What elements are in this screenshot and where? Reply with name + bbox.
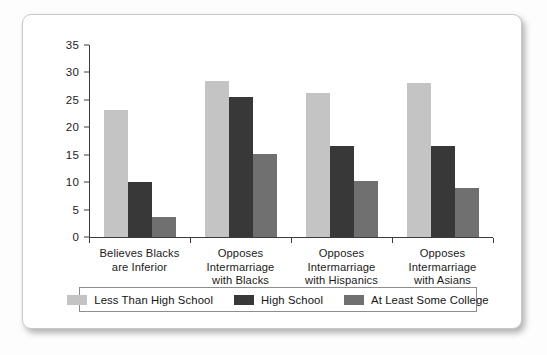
- legend-swatch: [344, 295, 364, 305]
- x-axis-category-labels: Believes Blacksare InferiorOpposesInterm…: [23, 15, 523, 330]
- legend-label: High School: [261, 294, 323, 306]
- legend-label: Less Than High School: [94, 294, 213, 306]
- chart-legend: Less Than High SchoolHigh SchoolAt Least…: [79, 287, 477, 312]
- x-axis-category-label: OpposesIntermarriagewith Hispanics: [291, 247, 392, 288]
- legend-swatch: [67, 295, 87, 305]
- x-axis-category-label: OpposesIntermarriagewith Asians: [392, 247, 493, 288]
- plot-area: 05101520253035 Believes Blacksare Inferi…: [23, 15, 523, 330]
- legend-item: Less Than High School: [67, 294, 213, 306]
- legend-swatch: [234, 295, 254, 305]
- chart-card: 05101520253035 Believes Blacksare Inferi…: [22, 14, 522, 329]
- x-axis-category-label: OpposesIntermarriagewith Blacks: [190, 247, 291, 288]
- x-axis-category-label: Believes Blacksare Inferior: [89, 247, 190, 274]
- legend-label: At Least Some College: [371, 294, 489, 306]
- legend-item: At Least Some College: [344, 294, 489, 306]
- legend-item: High School: [234, 294, 323, 306]
- chart-page: 05101520253035 Believes Blacksare Inferi…: [0, 0, 547, 355]
